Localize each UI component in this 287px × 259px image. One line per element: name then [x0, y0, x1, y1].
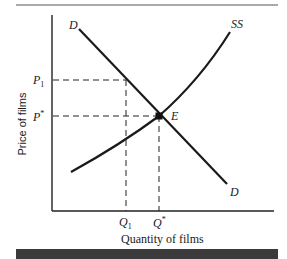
pstar-label: P*: [33, 110, 44, 123]
bottom-dark-bar: [16, 249, 278, 259]
supply-label: SS: [231, 18, 243, 30]
qstar-main: Q: [153, 216, 162, 230]
y-axis-label: Price of films: [16, 93, 28, 156]
demand-label-bottom: D: [230, 186, 239, 198]
equilibrium-label: E: [171, 110, 178, 122]
x-axis-label: Quantity of films: [121, 233, 204, 245]
q1-label: Q1: [119, 216, 132, 231]
supply-curve: [71, 32, 230, 172]
demand-label-top: D: [69, 19, 78, 31]
demand-curve: [79, 29, 227, 184]
supply-demand-diagram: [0, 0, 287, 259]
p1-label: P1: [33, 74, 44, 89]
equilibrium-point: [156, 113, 163, 120]
q1-sub: 1: [128, 222, 132, 231]
pstar-sup: *: [40, 109, 44, 118]
qstar-label: Q*: [153, 216, 166, 229]
qstar-sup: *: [162, 215, 166, 224]
q1-main: Q: [119, 215, 128, 229]
p1-sub: 1: [40, 80, 44, 89]
